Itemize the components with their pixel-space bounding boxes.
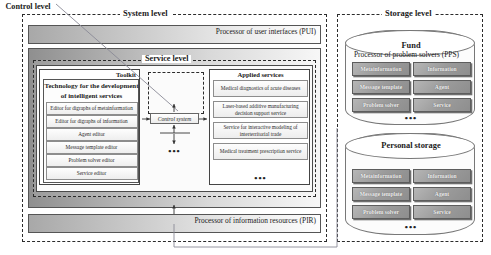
- fund-item-message-template[interactable]: Message template: [352, 80, 410, 94]
- fund-item-information[interactable]: Information: [413, 62, 471, 76]
- pui-label: Processor of user interfaces (PUI): [216, 27, 316, 36]
- toolkit-title: Technology for the development of intell…: [45, 81, 139, 100]
- fund-item-metainformation[interactable]: Metainformation: [352, 62, 410, 76]
- diagram-canvas: System level Processor of user interface…: [0, 0, 491, 255]
- personal-storage-title: Personal storage: [346, 141, 476, 151]
- pps-label: Processor of problem solvers (PPS): [354, 50, 459, 59]
- toolkit-inner-panel: Technology for the development of intell…: [43, 79, 139, 183]
- personal-storage-cylinder: Personal storage Metainformation Informa…: [345, 133, 475, 235]
- fund-title: Fund: [346, 41, 476, 50]
- toolkit-header: Toolkit: [116, 71, 136, 78]
- applied-services-panel: Applied services Medical diagnostics of …: [209, 69, 310, 185]
- applied-services-header: Applied services: [210, 71, 311, 78]
- toolkit-item-agent-editor[interactable]: Agent editor: [46, 128, 138, 141]
- personal-item-message-template[interactable]: Message template: [352, 187, 410, 201]
- fund-item-service[interactable]: Service: [413, 98, 471, 112]
- toolkit-item-problem-solver-editor[interactable]: Problem solver editor: [46, 154, 138, 167]
- applied-service-laser-manufacturing[interactable]: Laser-based additive manufacturing decis…: [213, 101, 308, 118]
- control-level-frame: [148, 72, 204, 114]
- processor-of-information-resources-band: Processor of information resources (PIR): [28, 214, 321, 233]
- personal-storage-ellipsis: •••: [346, 222, 476, 232]
- toolkit-item-service-editor[interactable]: Service editor: [46, 167, 138, 180]
- applied-service-interterritorial-trade[interactable]: Service for interactive modeling of inte…: [213, 122, 308, 139]
- applied-service-treatment-prescription[interactable]: Medical treatment prescription service: [213, 143, 308, 160]
- fund-item-agent[interactable]: Agent: [413, 80, 471, 94]
- toolkit-item-information-editor[interactable]: Editor for digraphs of information: [46, 115, 138, 128]
- applied-services-ellipsis: •••: [210, 173, 311, 183]
- fund-item-problem-solver[interactable]: Problem solver: [352, 98, 410, 112]
- toolkit-item-message-template-editor[interactable]: Message template editor: [46, 141, 138, 154]
- control-level-ellipsis: •••: [150, 146, 199, 156]
- fund-ellipsis: •••: [346, 113, 476, 123]
- applied-service-medical-diagnostics[interactable]: Medical diagnostics of acute diseases: [213, 80, 308, 97]
- storage-level-title: Storage level: [382, 9, 435, 18]
- pir-label: Processor of information resources (PIR): [194, 216, 316, 225]
- control-system-box[interactable]: Control system: [150, 113, 199, 124]
- personal-item-information[interactable]: Information: [413, 169, 471, 183]
- system-level-title: System level: [120, 9, 171, 18]
- personal-item-agent[interactable]: Agent: [413, 187, 471, 201]
- toolkit-item-metainformation-editor[interactable]: Editor for digraphs of metainformation: [46, 102, 138, 115]
- personal-item-service[interactable]: Service: [413, 205, 471, 219]
- processor-of-user-interfaces-band: Processor of user interfaces (PUI): [28, 25, 321, 44]
- personal-item-problem-solver[interactable]: Problem solver: [352, 205, 410, 219]
- personal-item-metainformation[interactable]: Metainformation: [352, 169, 410, 183]
- service-level-title: Service level: [142, 55, 191, 63]
- toolkit-panel: Toolkit Technology for the development o…: [39, 69, 140, 185]
- fund-cylinder: Fund Metainformation Information Message…: [345, 30, 475, 125]
- control-level-title: Control level: [0, 2, 56, 12]
